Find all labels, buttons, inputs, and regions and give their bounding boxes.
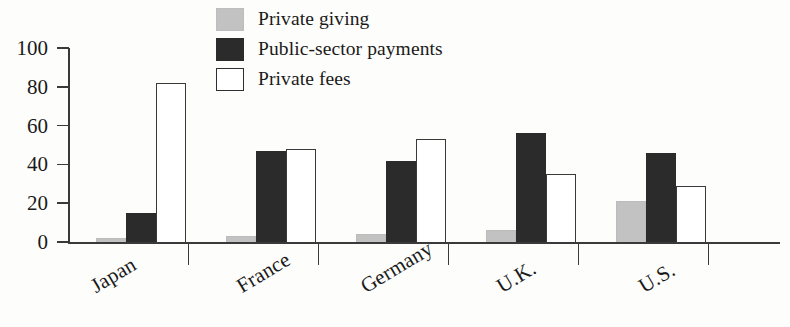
category-separator-5	[708, 243, 709, 265]
bar-private-fees	[156, 83, 186, 242]
y-axis-tick-label-60: 60	[2, 115, 48, 136]
y-axis-tick-mark-40	[57, 164, 69, 166]
bar-private-fees	[416, 139, 446, 242]
bar-chart-figure: Private giving Public-sector payments Pr…	[0, 0, 790, 327]
bar-group-u-k	[486, 133, 576, 242]
bar-private-giving	[356, 234, 386, 242]
bar-public-sector-payments	[126, 213, 156, 242]
bar-public-sector-payments	[516, 133, 546, 242]
bar-group-france	[226, 149, 316, 242]
y-axis-line	[68, 48, 70, 243]
category-separator-4	[578, 243, 579, 265]
plot-area: 020406080100 JapanFranceGermanyU.K.U.S.	[0, 0, 790, 327]
bar-private-giving	[616, 201, 646, 242]
category-separator-1	[188, 243, 189, 265]
bar-private-fees	[676, 186, 706, 242]
bar-private-giving	[96, 238, 126, 242]
y-axis-tick-label-40: 40	[2, 154, 48, 175]
y-axis-tick-mark-60	[57, 125, 69, 127]
x-axis-label-u-s: U.S.	[635, 259, 679, 297]
x-axis-label-japan: Japan	[87, 254, 140, 297]
bar-private-fees	[286, 149, 316, 242]
x-axis-label-u-k: U.K.	[493, 258, 540, 297]
y-axis-tick-label-0: 0	[2, 232, 48, 253]
bar-private-giving	[486, 230, 516, 242]
bar-public-sector-payments	[256, 151, 286, 242]
y-axis-tick-mark-20	[57, 202, 69, 204]
y-axis-tick-label-20: 20	[2, 193, 48, 214]
y-axis-tick-mark-100	[57, 47, 69, 49]
category-separator-2	[318, 243, 319, 265]
category-separator-3	[448, 243, 449, 265]
y-axis-tick-mark-0	[57, 241, 69, 243]
bar-public-sector-payments	[646, 153, 676, 242]
bar-group-japan	[96, 83, 186, 242]
bar-public-sector-payments	[386, 161, 416, 242]
y-axis-tick-label-100: 100	[2, 38, 48, 59]
x-axis-label-germany: Germany	[357, 238, 436, 297]
x-axis-label-france: France	[233, 249, 294, 297]
bar-group-u-s	[616, 153, 706, 242]
y-axis-tick-labels: 020406080100	[0, 0, 48, 327]
y-axis-tick-mark-80	[57, 86, 69, 88]
y-axis-tick-label-80: 80	[2, 76, 48, 97]
bar-private-fees	[546, 174, 576, 242]
bar-group-germany	[356, 139, 446, 242]
bar-private-giving	[226, 236, 256, 242]
